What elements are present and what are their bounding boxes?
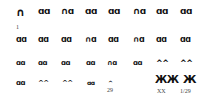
chromosome-pair: ɑɑ: [180, 36, 190, 44]
chromosome-pair: ∩ɑ: [85, 36, 96, 44]
chromosome-pair: ɑɑ: [156, 7, 168, 16]
chromosome-label: XX: [157, 88, 166, 94]
chromosome-pair: ∩: [16, 7, 24, 18]
chromosome-pair: ∩ɑ: [107, 60, 117, 67]
chromosome-pair: ɑɑ: [180, 7, 192, 16]
chromosome-pair: ɑɑ: [38, 60, 47, 67]
chromosome-pair: ɑɑ: [133, 60, 142, 67]
chromosome-pair: ɑɑ: [38, 36, 48, 44]
chromosome-pair: ɑɑ: [108, 7, 120, 16]
chromosome-pair: ɑɑ: [61, 60, 70, 67]
chromosome-pair: ɑɑ: [61, 36, 71, 44]
chromosome-pair: ^^: [38, 80, 49, 87]
chromosome-pair: ^: [108, 80, 113, 86]
chromosome-pair: ^^: [156, 60, 168, 68]
chromosome-pair: ɑɑ: [16, 80, 25, 87]
chromosome-label: 1: [16, 24, 19, 30]
chromosome-pair: ɑɑ: [16, 36, 26, 44]
chromosome-label: 29: [107, 87, 113, 93]
chromosome-pair: ^^: [62, 80, 73, 87]
chromosome-pair: ∩ɑ: [133, 36, 144, 44]
chromosome-pair: ɑɑ: [16, 60, 25, 67]
chromosome-pair: ∩ɑ: [133, 7, 146, 16]
sex-chromosome: Ж: [183, 74, 196, 85]
chromosome-pair: ɑɑ: [85, 7, 97, 16]
chromosome-pair: ɑɑ: [86, 60, 95, 67]
chromosome-label: 1/29: [180, 88, 191, 94]
chromosome-pair: ∩ɑ: [61, 7, 74, 16]
sex-chromosome: ЖЖ: [155, 75, 178, 85]
chromosome-pair: ^^: [180, 60, 192, 68]
chromosome-pair: ɑɑ: [156, 36, 166, 44]
chromosome-pair: ɑɑ: [38, 7, 50, 16]
chromosome-pair: ɑɑ: [108, 36, 118, 44]
chromosome-pair: ɑɑ: [87, 80, 95, 86]
